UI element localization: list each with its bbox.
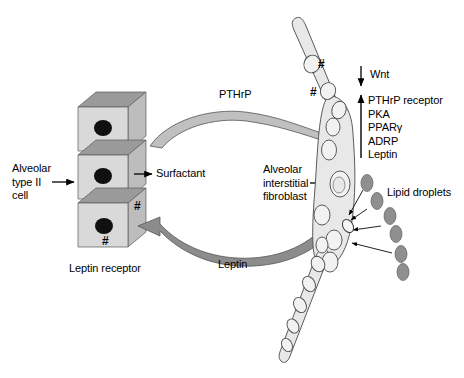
nucleus — [95, 218, 113, 234]
list-item-adrp: ADRP — [368, 135, 443, 149]
receptor-marker-fibroblast-2: # — [310, 86, 317, 100]
nucleus — [94, 168, 112, 184]
receptor-marker-fibroblast-1: # — [318, 58, 325, 72]
label-pthrp: PTHrP — [219, 88, 252, 102]
alveolar-type-ii-cell-stack — [78, 92, 146, 247]
label-alveolar-type-ii-cell: Alveolar type II cell — [12, 162, 74, 203]
list-item-ppar-gamma: PPARγ — [368, 121, 443, 135]
lipid-droplet — [371, 193, 383, 210]
lipid-droplet — [397, 264, 409, 281]
label-surfactant: Surfactant — [156, 167, 205, 181]
label-lipid-droplets: Lipid droplets — [387, 186, 451, 200]
receptor-marker-epithelial-1: # — [134, 200, 141, 214]
list-item-pthrp-receptor: PTHrP receptor — [368, 94, 443, 108]
label-wnt: Wnt — [370, 68, 389, 82]
alveolar-type-ii-cell-3 — [78, 188, 146, 247]
label-alveolar-interstitial-fibroblast: Alveolar interstitial fibroblast — [263, 163, 323, 204]
list-item-leptin: Leptin — [368, 148, 443, 162]
nucleus — [94, 120, 112, 136]
label-leptin-receptor: Leptin receptor — [69, 262, 141, 276]
upregulated-factor-list: PTHrP receptor PKA PPARγ ADRP Leptin — [368, 94, 443, 162]
lipid-droplet — [361, 175, 373, 192]
lipid-droplet — [395, 246, 407, 263]
lipid-droplet — [390, 226, 402, 243]
lipid-droplet — [384, 208, 396, 225]
figure-canvas: Alveolar type II cell Surfactant Leptin … — [0, 0, 464, 378]
receptor-marker-epithelial-2: # — [102, 235, 109, 249]
label-leptin: Leptin — [218, 258, 247, 272]
list-item-pka: PKA — [368, 108, 443, 122]
